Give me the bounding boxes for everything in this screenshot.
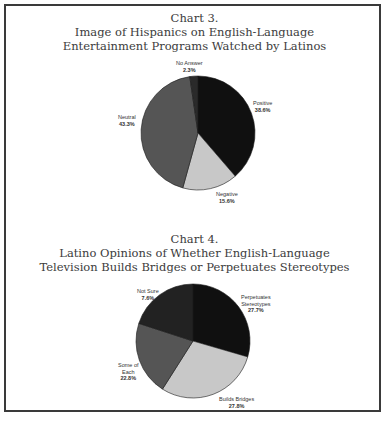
chart4-pie (0, 0, 389, 426)
chart4-label-builds-bridges: Builds Bridges 27.8% (219, 396, 254, 409)
chart4-label-perpetuates: Perpetuates Stereotypes 27.7% (241, 294, 271, 314)
chart4-label-not-sure: Not Sure 7.6% (137, 288, 159, 301)
chart4-label-some-of-each: Some of Each 22.8% (118, 362, 138, 382)
